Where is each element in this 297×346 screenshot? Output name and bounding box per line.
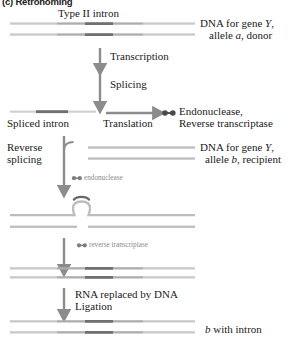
ligation-label: Ligation — [75, 300, 112, 312]
rna-replaced-label-line1: RNA replaced by DNA — [75, 288, 178, 300]
reverse-splicing-label-line1: Reverse — [7, 141, 42, 153]
intron-segment — [85, 33, 113, 36]
final-product-label: b with intron — [205, 323, 262, 335]
post-rt-dna-duplex — [10, 267, 195, 279]
endonuclease-label: Endonuclease, — [179, 105, 243, 117]
gene-symbol: Y — [265, 17, 271, 29]
donor-dna-bottom-strand — [10, 33, 195, 36]
allele-symbol: b — [232, 153, 238, 165]
final-dna-duplex — [10, 320, 195, 334]
endonuclease-small-label: endonuclease — [84, 174, 123, 182]
intron-segment — [85, 267, 113, 270]
spliced-intron-label: Spliced intron — [7, 117, 69, 129]
curved-branch-arrow-icon — [64, 136, 74, 188]
allele-symbol: b — [205, 323, 211, 335]
allele-symbol: a — [236, 29, 242, 41]
donor-dna-label-line2: allele a, donor — [209, 29, 272, 41]
dumbbell-icon — [72, 176, 82, 180]
type-ii-intron-label: Type II intron — [58, 7, 119, 19]
donor-dna-top-strand — [10, 22, 195, 25]
translation-label: Translation — [103, 117, 153, 129]
donor-dna-label-line1: DNA for gene Y, — [200, 17, 274, 29]
gene-symbol: Y — [265, 141, 271, 153]
final-bottom-strand — [10, 331, 195, 334]
recipient-dna-duplex — [88, 146, 195, 159]
dumbbell-icon — [77, 243, 87, 247]
reverse-splicing-label-line2: splicing — [7, 153, 42, 165]
intron-segment — [85, 276, 113, 279]
recipient-dna-label-line1: DNA for gene Y, — [200, 141, 274, 153]
reverse-transcriptase-small-label: reverse transcriptase — [89, 241, 148, 249]
donor-dna-duplex — [10, 22, 195, 36]
post-rt-top-strand — [10, 267, 195, 270]
intron-segment — [85, 331, 113, 334]
post-rt-bottom-strand — [10, 276, 195, 279]
lariat-loop-icon — [10, 197, 195, 228]
intron-segment — [36, 110, 68, 113]
recipient-dna-label-line2: allele b, recipient — [205, 153, 281, 165]
nicked-bottom-strand-right — [88, 226, 195, 228]
spliced-intron-strand — [10, 110, 96, 113]
final-top-strand — [10, 320, 195, 323]
intron-segment — [85, 320, 113, 323]
reverse-transcriptase-label: Reverse transcriptase — [179, 117, 273, 129]
intron-segment — [85, 22, 113, 25]
dumbbell-icon — [162, 110, 175, 116]
nicked-bottom-strand-left — [10, 226, 77, 228]
transcription-label: Transcription — [110, 50, 169, 62]
recipient-dna-top-strand — [88, 146, 195, 148]
recipient-dna-bottom-strand — [88, 157, 195, 159]
splicing-label: Splicing — [110, 78, 147, 90]
